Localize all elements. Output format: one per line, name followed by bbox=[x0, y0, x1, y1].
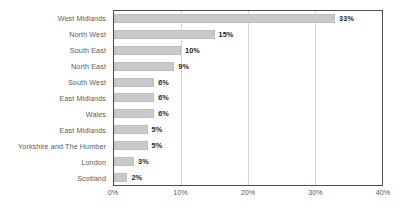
bar-value-label: 3% bbox=[138, 157, 149, 166]
category-label: South East bbox=[0, 42, 110, 58]
category-label-text: Yorkshire and The Humber bbox=[18, 142, 106, 151]
bar bbox=[114, 173, 127, 182]
bar-row: 5% bbox=[114, 138, 382, 154]
category-label: East Midlands bbox=[0, 90, 110, 106]
category-label-text: North East bbox=[71, 62, 106, 71]
bar-value-label: 33% bbox=[339, 14, 354, 23]
x-tick-label: 30% bbox=[308, 188, 323, 197]
category-label-text: East Midlands bbox=[60, 94, 106, 103]
category-label-text: East Midlands bbox=[60, 126, 106, 135]
bar-value-label: 5% bbox=[152, 125, 163, 134]
plot-area: 33%15%10%9%6%6%6%5%5%3%2% bbox=[113, 10, 383, 186]
category-label-text: London bbox=[81, 158, 106, 167]
bar bbox=[114, 93, 154, 102]
bar-value-label: 6% bbox=[158, 93, 169, 102]
bar bbox=[114, 78, 154, 87]
bar bbox=[114, 125, 148, 134]
bars-layer: 33%15%10%9%6%6%6%5%5%3%2% bbox=[114, 11, 382, 185]
category-label: East Midlands bbox=[0, 122, 110, 138]
bar-row: 5% bbox=[114, 122, 382, 138]
bar-row: 6% bbox=[114, 90, 382, 106]
category-label-text: North West bbox=[69, 30, 106, 39]
category-label-text: West Midlands bbox=[58, 14, 106, 23]
category-label: Wales bbox=[0, 106, 110, 122]
bar bbox=[114, 141, 148, 150]
bar-value-label: 2% bbox=[131, 173, 142, 182]
category-label-text: South East bbox=[70, 46, 106, 55]
bar-value-label: 5% bbox=[152, 141, 163, 150]
bar-row: 6% bbox=[114, 74, 382, 90]
bar bbox=[114, 30, 215, 39]
category-label: West Midlands bbox=[0, 10, 110, 26]
x-tick-label: 0% bbox=[108, 188, 119, 197]
category-label: Scotland bbox=[0, 170, 110, 186]
bar-row: 2% bbox=[114, 169, 382, 185]
bar-row: 33% bbox=[114, 11, 382, 27]
bar-row: 3% bbox=[114, 153, 382, 169]
x-tick-label: 10% bbox=[173, 188, 188, 197]
category-label: Yorkshire and The Humber bbox=[0, 138, 110, 154]
bar-row: 9% bbox=[114, 58, 382, 74]
bar bbox=[114, 46, 181, 55]
bar-chart: West MidlandsNorth WestSouth EastNorth E… bbox=[0, 0, 411, 214]
bar-value-label: 6% bbox=[158, 109, 169, 118]
bar bbox=[114, 14, 335, 23]
bar-value-label: 9% bbox=[178, 62, 189, 71]
bar-row: 15% bbox=[114, 27, 382, 43]
category-label-text: South West bbox=[68, 78, 106, 87]
x-axis: 0%10%20%30%40% bbox=[113, 188, 383, 206]
category-label: South West bbox=[0, 74, 110, 90]
category-label: North East bbox=[0, 58, 110, 74]
bar bbox=[114, 157, 134, 166]
category-axis: West MidlandsNorth WestSouth EastNorth E… bbox=[0, 10, 110, 186]
x-tick-label: 40% bbox=[376, 188, 391, 197]
category-label: North West bbox=[0, 26, 110, 42]
bar-row: 10% bbox=[114, 43, 382, 59]
category-label: London bbox=[0, 154, 110, 170]
bar bbox=[114, 62, 174, 71]
x-tick-label: 20% bbox=[241, 188, 256, 197]
category-label-text: Scotland bbox=[77, 174, 106, 183]
bar-value-label: 15% bbox=[219, 30, 234, 39]
bar-value-label: 10% bbox=[185, 46, 200, 55]
bar-row: 6% bbox=[114, 106, 382, 122]
category-label-text: Wales bbox=[86, 110, 106, 119]
bar bbox=[114, 109, 154, 118]
bar-value-label: 6% bbox=[158, 78, 169, 87]
